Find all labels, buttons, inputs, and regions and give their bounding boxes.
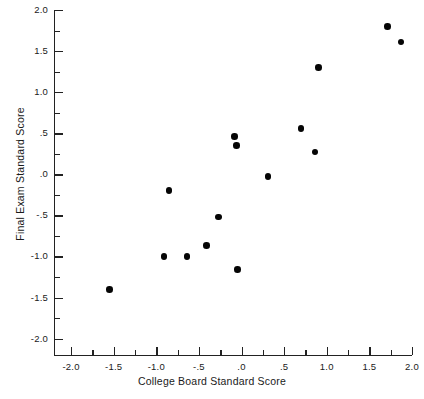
data-point [161, 253, 168, 260]
x-axis-tick-labels: -2.0-1.5-1.0-.5.0.51.01.52.0 [0, 357, 424, 377]
y-axis-line [54, 10, 55, 355]
y-axis-title: Final Exam Standard Score [14, 74, 26, 274]
y-tick-label: .0 [40, 168, 48, 179]
x-tick-minor [263, 350, 264, 355]
data-point [398, 39, 405, 46]
data-point [203, 242, 210, 249]
x-tick-major [114, 347, 115, 355]
data-point [234, 266, 241, 273]
y-tick-minor [55, 113, 60, 114]
y-tick-minor [55, 72, 60, 73]
x-tick-minor [135, 350, 136, 355]
x-tick-minor [391, 350, 392, 355]
y-tick-major [55, 256, 63, 257]
x-tick-minor [348, 350, 349, 355]
x-tick-major [412, 347, 413, 355]
y-tick-major [55, 339, 63, 340]
y-tick-major [55, 174, 63, 175]
y-tick-major [55, 215, 63, 216]
x-tick-major [199, 347, 200, 355]
y-tick-minor [55, 236, 60, 237]
data-point [298, 125, 305, 132]
y-tick-minor [55, 31, 60, 32]
y-tick-label: 2.0 [34, 4, 48, 15]
y-tick-label: -1.0 [31, 250, 48, 261]
x-tick-label: -2.0 [62, 361, 79, 372]
y-tick-label: .5 [40, 127, 48, 138]
y-tick-major [55, 10, 63, 11]
x-tick-major [242, 347, 243, 355]
y-tick-label: -1.5 [31, 292, 48, 303]
x-tick-minor [178, 350, 179, 355]
data-point [384, 23, 391, 30]
y-tick-minor [55, 195, 60, 196]
y-tick-minor [55, 154, 60, 155]
x-tick-minor [305, 350, 306, 355]
x-axis-title: College Board Standard Score [0, 375, 424, 387]
x-tick-label: 2.0 [405, 361, 419, 372]
y-tick-major [55, 92, 63, 93]
data-point [312, 149, 319, 156]
data-point [184, 253, 191, 260]
x-tick-label: 1.5 [362, 361, 376, 372]
data-point [231, 133, 238, 140]
x-tick-minor [92, 350, 93, 355]
y-tick-major [55, 51, 63, 52]
data-point [106, 286, 113, 293]
data-point [233, 142, 240, 149]
data-point [215, 214, 222, 221]
x-tick-label: .0 [237, 361, 245, 372]
data-point [265, 173, 272, 180]
x-tick-label: -.5 [193, 361, 205, 372]
x-tick-label: .5 [280, 361, 288, 372]
x-tick-label: 1.0 [320, 361, 334, 372]
x-tick-label: -1.0 [148, 361, 165, 372]
y-tick-label: -.5 [36, 209, 48, 220]
y-tick-minor [55, 318, 60, 319]
data-point [315, 64, 322, 71]
x-tick-label: -1.5 [105, 361, 122, 372]
y-tick-major [55, 133, 63, 134]
x-tick-minor [220, 350, 221, 355]
x-tick-major [284, 347, 285, 355]
scatter-plot-figure: -2.0-1.5-1.0-.5.0.51.01.52.0 -2.0-1.5-1.… [0, 0, 424, 399]
x-tick-major [71, 347, 72, 355]
y-tick-minor [55, 277, 60, 278]
x-tick-major [327, 347, 328, 355]
plot-area [54, 10, 412, 355]
y-tick-major [55, 298, 63, 299]
y-tick-label: 1.5 [34, 45, 48, 56]
data-point [166, 187, 173, 194]
x-tick-major [369, 347, 370, 355]
x-tick-major [156, 347, 157, 355]
y-tick-label: 1.0 [34, 86, 48, 97]
y-tick-label: -2.0 [31, 333, 48, 344]
